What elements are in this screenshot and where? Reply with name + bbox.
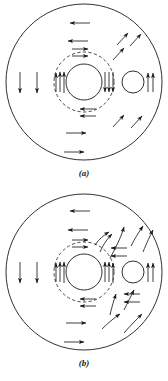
central-body-circle (66, 254, 102, 290)
panel-a-caption: (a) (0, 168, 168, 178)
curve-lr-3 (102, 314, 120, 329)
satellite-body-circle (122, 261, 144, 283)
panel-b: (b) (0, 190, 168, 380)
outer-boundary-circle (6, 194, 162, 350)
arrow-ur-diag-2 (117, 33, 128, 45)
arrow-ur-diag-3 (130, 34, 141, 46)
panel-a-diagram (0, 0, 168, 172)
figure-container: (a) (0, 0, 168, 381)
vector-field-a (20, 23, 153, 152)
panel-a: (a) (0, 0, 168, 190)
curve-ur-5 (95, 232, 109, 245)
curve-lr-2 (124, 290, 134, 310)
central-body-circle (66, 64, 102, 100)
vector-field-b (20, 211, 153, 342)
arrow-lr-diag-2 (131, 116, 142, 128)
curve-lr-1 (110, 294, 116, 315)
curve-ur-3 (131, 226, 143, 246)
panel-b-diagram (0, 190, 168, 362)
arrow-ur-diag-1 (113, 48, 124, 60)
outer-boundary-circle (6, 4, 162, 160)
curve-lr-4 (124, 314, 142, 333)
arrow-lr-diag-1 (113, 115, 124, 127)
curve-ur-4 (143, 230, 153, 252)
satellite-body-circle (122, 71, 144, 93)
curve-ur-2 (110, 227, 124, 258)
panel-b-caption: (b) (0, 358, 168, 368)
